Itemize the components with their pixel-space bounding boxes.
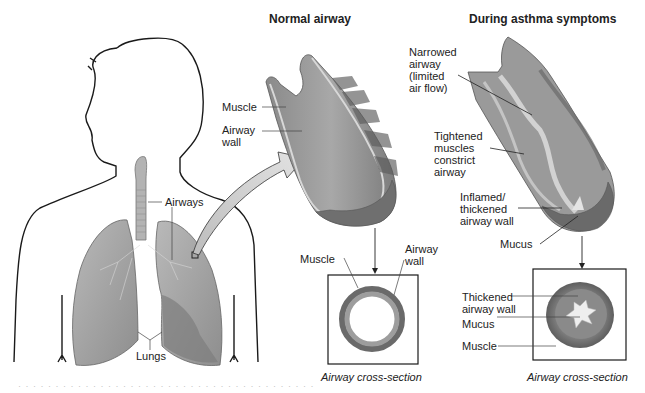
label-lungs: Lungs	[136, 350, 166, 362]
cropped-caption-text: · · · · · · · · · · · · · · · · · · · · …	[18, 381, 314, 391]
lungs	[73, 202, 222, 366]
caption-normal-cross-section: Airway cross-section	[321, 371, 422, 383]
normal-cross-section	[328, 258, 418, 364]
caption-asthma-cross-section: Airway cross-section	[527, 371, 628, 383]
trachea	[135, 157, 147, 240]
diagram-artwork	[0, 0, 645, 393]
label-cs-muscle: Muscle	[462, 340, 497, 352]
label-inflamed-wall: Inflamed/ thickened airway wall	[460, 191, 514, 227]
label-cs-thickened-wall: Thickened airway wall	[462, 291, 516, 315]
label-cs-muscle: Muscle	[300, 253, 335, 265]
label-tightened-muscles: Tightened muscles constrict airway	[434, 130, 483, 178]
asthma-airway-diagram: Normal airway During asthma symptoms Air…	[0, 0, 645, 393]
label-muscle: Muscle	[222, 101, 257, 113]
title-normal-airway: Normal airway	[269, 12, 351, 26]
label-cs-airway-wall: Airway wall	[405, 243, 438, 267]
zoom-arrow	[193, 152, 305, 255]
asthma-cross-section	[497, 269, 626, 360]
label-airway-wall: Airway wall	[222, 124, 255, 148]
label-mucus: Mucus	[500, 238, 532, 250]
title-asthma-airway: During asthma symptoms	[469, 12, 616, 26]
label-cs-mucus: Mucus	[462, 318, 494, 330]
label-airways: Airways	[165, 196, 204, 208]
label-narrowed-airway: Narrowed airway (limited air flow)	[409, 46, 457, 94]
